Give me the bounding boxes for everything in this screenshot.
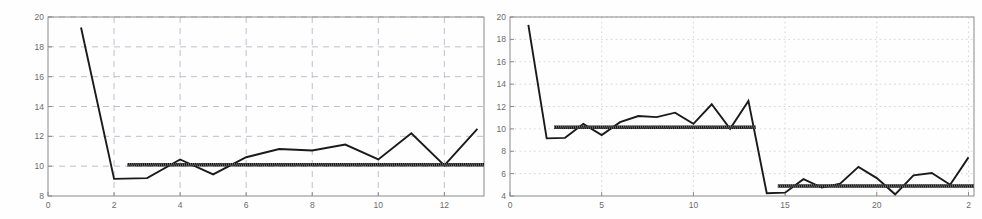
gridlines [48, 17, 484, 196]
x-tick-label: 10 [374, 200, 384, 210]
y-tick-label: 18 [35, 42, 45, 52]
tick-labels: 468101214161820051015202 [497, 12, 972, 210]
chart-panel-right: 468101214161820051015202 [487, 0, 982, 219]
x-tick-label: 5 [599, 200, 604, 210]
data-series-group [528, 25, 974, 194]
y-tick-label: 16 [35, 72, 45, 82]
data-series-group [81, 27, 484, 178]
y-tick-label: 8 [39, 191, 44, 201]
y-tick-label: 18 [497, 34, 507, 44]
tick-labels: 8101214161820024681012 [35, 12, 450, 210]
y-tick-label: 20 [35, 12, 45, 22]
plot-frame [48, 17, 484, 196]
x-tick-label: 0 [508, 200, 513, 210]
y-tick-label: 8 [501, 146, 506, 156]
x-tick-label: 2 [966, 200, 971, 210]
x-tick-label: 6 [244, 200, 249, 210]
x-tick-label: 12 [440, 200, 450, 210]
y-tick-label: 10 [35, 161, 45, 171]
y-tick-label: 14 [35, 102, 45, 112]
data-line-estimate [528, 25, 968, 194]
y-tick-label: 12 [35, 131, 45, 141]
data-line-estimate [81, 27, 477, 178]
x-tick-label: 0 [46, 200, 51, 210]
y-tick-label: 4 [501, 191, 506, 201]
figure-container: 8101214161820024681012 46810121416182005… [0, 0, 982, 219]
x-tick-label: 10 [689, 200, 699, 210]
x-tick-label: 4 [178, 200, 183, 210]
axis-frame [48, 17, 484, 196]
y-tick-label: 16 [497, 57, 507, 67]
gridlines [510, 17, 974, 196]
y-tick-label: 6 [501, 169, 506, 179]
y-tick-label: 20 [497, 12, 507, 22]
y-tick-label: 10 [497, 124, 507, 134]
x-tick-label: 15 [780, 200, 790, 210]
chart-panel-left: 8101214161820024681012 [0, 0, 495, 219]
left-plot-svg: 8101214161820024681012 [0, 0, 495, 219]
y-tick-label: 14 [497, 79, 507, 89]
right-plot-svg: 468101214161820051015202 [487, 0, 982, 219]
band-hatch [756, 126, 757, 129]
x-tick-label: 20 [872, 200, 882, 210]
y-tick-label: 12 [497, 102, 507, 112]
x-tick-label: 8 [310, 200, 315, 210]
x-tick-label: 2 [112, 200, 117, 210]
